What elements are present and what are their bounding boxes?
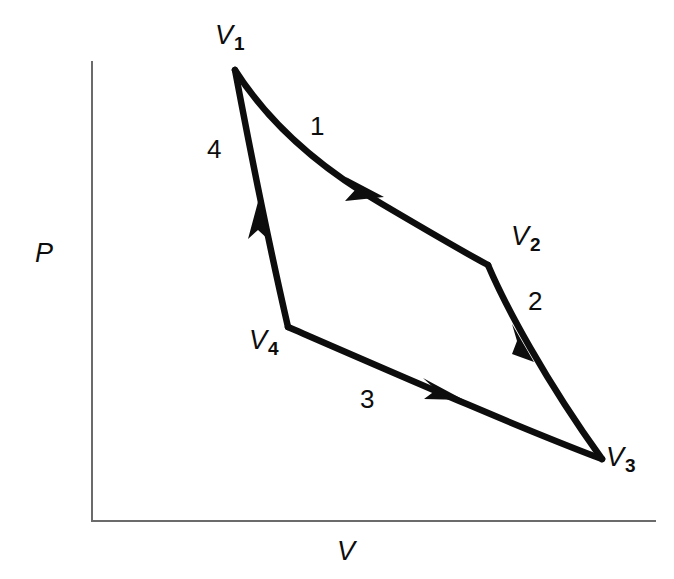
- state-label-v3-subscript: 3: [625, 455, 636, 476]
- process-curve-2-path: [488, 265, 602, 459]
- state-label-v1: V1: [215, 22, 245, 53]
- pv-diagram: V1 V2 V3 V4 1 2 3 4 P V: [0, 0, 674, 579]
- process-curve-1-path: [235, 70, 488, 265]
- x-axis-label: V: [337, 538, 355, 565]
- process-label-4: 4: [207, 136, 221, 162]
- state-label-v1-symbol: V: [215, 20, 233, 50]
- diagram-canvas: [0, 0, 674, 579]
- state-label-v3: V3: [606, 444, 636, 475]
- process-curve-1: [235, 70, 488, 265]
- state-label-v3-symbol: V: [606, 442, 624, 472]
- state-label-v2-subscript: 2: [530, 234, 541, 255]
- process-label-3: 3: [360, 386, 374, 412]
- process-1-arrowhead: [345, 177, 384, 201]
- axes-group: [92, 62, 655, 521]
- state-label-v2: V2: [511, 223, 541, 254]
- process-label-2: 2: [528, 288, 542, 314]
- y-axis-label: P: [35, 240, 53, 267]
- state-label-v4: V4: [249, 327, 279, 358]
- state-label-v1-subscript: 1: [234, 33, 245, 54]
- state-label-v4-symbol: V: [249, 325, 267, 355]
- state-label-v4-subscript: 4: [268, 338, 279, 359]
- process-curve-2: [488, 265, 602, 459]
- state-label-v2-symbol: V: [511, 221, 529, 251]
- process-label-1: 1: [310, 113, 324, 139]
